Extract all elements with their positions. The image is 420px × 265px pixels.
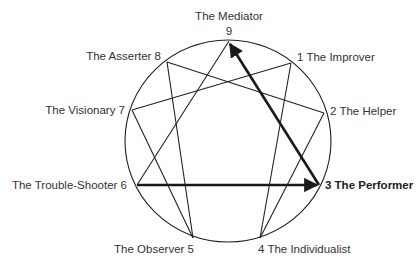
label-9-number: 9	[226, 25, 232, 37]
edge-9-6	[137, 41, 229, 185]
label-5: The Observer 5	[114, 243, 194, 255]
label-8: The Asserter 8	[86, 50, 161, 62]
label-2: 2 The Helper	[330, 105, 396, 117]
arrow-3-to-9	[230, 44, 319, 185]
label-6: The Trouble-Shooter 6	[12, 179, 127, 191]
enneagram-diagram: The Mediator 9 1 The Improver 2 The Help…	[0, 0, 420, 265]
label-4: 4 The Individualist	[258, 243, 351, 255]
label-3: 3 The Performer	[325, 179, 414, 191]
label-9-name: The Mediator	[195, 10, 263, 22]
edge-1-4	[260, 63, 291, 238]
label-7: The Visionary 7	[45, 104, 125, 116]
label-1: 1 The Improver	[297, 51, 375, 63]
enneagram-circle	[125, 40, 331, 242]
